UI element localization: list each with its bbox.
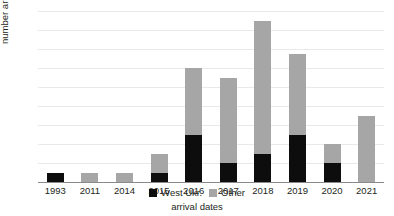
bar-segment-other: [185, 68, 202, 135]
bar-stack: [185, 68, 202, 182]
bar-stack: [324, 144, 341, 182]
bar-segment-west-ukr: [254, 154, 271, 183]
bar-stack: [151, 154, 168, 183]
bar-segment-other: [289, 54, 306, 135]
bar-stack: [254, 21, 271, 183]
bar-segment-other: [220, 78, 237, 164]
bar-stack: [358, 116, 375, 183]
bar-group: [38, 11, 73, 182]
bar-segment-other: [116, 173, 133, 183]
legend-label: Other: [221, 187, 245, 198]
bar-group: [211, 11, 246, 182]
bar-stack: [81, 173, 98, 183]
bar-segment-other: [324, 144, 341, 163]
legend-swatch-icon: [149, 189, 157, 197]
chart-legend: West Ukr.Other: [0, 187, 394, 198]
legend-label: West Ukr.: [161, 187, 202, 198]
bar-segment-west-ukr: [185, 135, 202, 183]
bar-stack: [116, 173, 133, 183]
plot-area: 024681012141618: [38, 11, 384, 182]
bar-group: [176, 11, 211, 182]
bar-series: [38, 11, 384, 182]
bar-stack: [220, 78, 237, 183]
bar-segment-other: [358, 116, 375, 183]
bar-group: [107, 11, 142, 182]
bar-group: [280, 11, 315, 182]
bar-stack: [289, 54, 306, 182]
legend-item-other[interactable]: Other: [209, 187, 245, 198]
bar-segment-west-ukr: [324, 163, 341, 182]
bar-segment-west-ukr: [47, 173, 64, 183]
legend-item-west-ukr[interactable]: West Ukr.: [149, 187, 202, 198]
x-axis-label: arrival dates: [0, 201, 394, 212]
y-axis-label: number arriving: [0, 0, 10, 44]
legend-swatch-icon: [209, 189, 217, 197]
chart-container: number arriving 024681012141618 19932011…: [0, 0, 394, 216]
bar-segment-other: [151, 154, 168, 173]
bar-group: [246, 11, 281, 182]
bar-group: [142, 11, 177, 182]
bar-group: [73, 11, 108, 182]
bar-segment-other: [81, 173, 98, 183]
bar-segment-other: [254, 21, 271, 154]
bar-stack: [47, 173, 64, 183]
bar-group: [315, 11, 350, 182]
bar-segment-west-ukr: [289, 135, 306, 183]
bar-segment-west-ukr: [151, 173, 168, 183]
bar-group: [349, 11, 384, 182]
bar-segment-west-ukr: [220, 163, 237, 182]
